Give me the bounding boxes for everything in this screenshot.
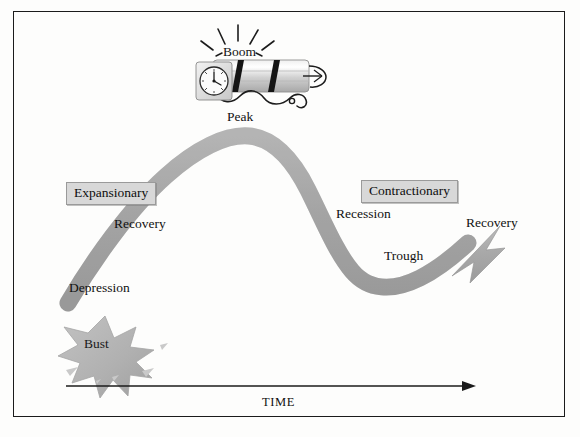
alarm-clock-icon <box>196 62 232 100</box>
phase-box-contractionary: Contractionary <box>361 180 458 203</box>
stage-label-recovery-left: Recovery <box>114 217 166 231</box>
stage-label-trough: Trough <box>384 249 423 263</box>
business-cycle-diagram: Expansionary Contractionary Peak Recover… <box>0 0 580 437</box>
stage-label-depression: Depression <box>69 281 130 295</box>
stage-label-recovery-right: Recovery <box>466 216 518 230</box>
stage-label-peak: Peak <box>227 110 253 124</box>
dynamite-icon <box>196 25 326 108</box>
time-axis-arrowhead <box>462 381 476 391</box>
phase-box-expansionary: Expansionary <box>66 182 156 205</box>
axis-label-time: TIME <box>262 396 295 409</box>
event-label-bust: Bust <box>84 337 109 351</box>
stage-label-recession: Recession <box>336 207 391 221</box>
event-label-boom: Boom <box>223 45 256 59</box>
